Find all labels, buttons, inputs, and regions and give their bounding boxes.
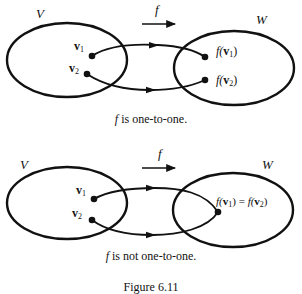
point-f-v1 xyxy=(202,54,209,61)
map-f-label: f xyxy=(158,148,162,160)
caption-not-one-to-one: f is not one-to-one. xyxy=(0,249,302,263)
label-v1: v1 xyxy=(74,40,84,56)
label-f-v1: f(v1) xyxy=(216,45,237,61)
set-w-label: W xyxy=(256,14,267,26)
figure-caption: Figure 6.11 xyxy=(0,280,302,294)
mapping-curve-v1 xyxy=(92,45,205,57)
caption-one-to-one: f is one-to-one. xyxy=(0,112,302,126)
label-merged-image: f(v1) = f(v2) xyxy=(216,195,268,211)
set-w-ellipse xyxy=(174,31,294,105)
map-f-label: f xyxy=(155,4,159,16)
mapping-curve-v2 xyxy=(92,212,218,235)
set-v-label: V xyxy=(36,8,44,20)
curve-arrowhead-icon xyxy=(146,185,156,192)
set-v-ellipse xyxy=(7,23,127,97)
curve-arrowhead-icon xyxy=(149,42,159,49)
point-v1 xyxy=(89,53,96,60)
point-v2 xyxy=(84,71,91,78)
mapping-curve-v1 xyxy=(94,188,218,212)
point-f-v2 xyxy=(202,77,209,84)
label-v2: v2 xyxy=(72,207,82,223)
label-v1: v1 xyxy=(76,184,86,200)
set-w-label: W xyxy=(262,159,273,171)
set-v-label: V xyxy=(20,159,28,171)
label-v2: v2 xyxy=(69,62,79,78)
label-f-v2: f(v2) xyxy=(216,74,237,90)
point-v2 xyxy=(89,217,96,224)
curve-arrowhead-icon xyxy=(146,232,156,239)
top-diagram xyxy=(7,23,294,105)
point-v1 xyxy=(91,196,98,203)
curve-arrowhead-icon xyxy=(146,87,156,94)
